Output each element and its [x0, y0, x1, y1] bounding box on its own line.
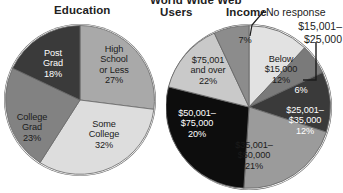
callout-15001-25000: $15,001– $25,000	[286, 20, 342, 45]
label-high-school: High School or Less 27%	[86, 44, 142, 86]
label-college-grad: College Grad 23%	[6, 112, 58, 143]
label-below-15000: Below $15,000 12%	[254, 54, 308, 85]
figure-root: World Wide Web Users Education Income Hi…	[0, 0, 343, 193]
label-some-college: Some College 32%	[75, 119, 133, 150]
figure-supertitle-line2: Users	[160, 6, 192, 18]
label-15001-25000-pct: 6%	[289, 85, 313, 95]
label-50001-75000: $50,001– $75,000 20%	[168, 108, 226, 139]
income-chart-title: Income	[226, 6, 267, 18]
label-25001-35000: $25,001– $35,000 12%	[276, 105, 334, 136]
label-35001-50000: $35,001– $50,000 21%	[224, 140, 284, 171]
label-no-response-pct: 7%	[232, 35, 258, 45]
label-75001-and-over: $75,001 and over 22%	[178, 55, 238, 86]
education-chart-title: Education	[54, 4, 111, 16]
callout-no-response: No response	[266, 6, 326, 18]
label-post-grad: Post Grad 18%	[28, 48, 78, 79]
